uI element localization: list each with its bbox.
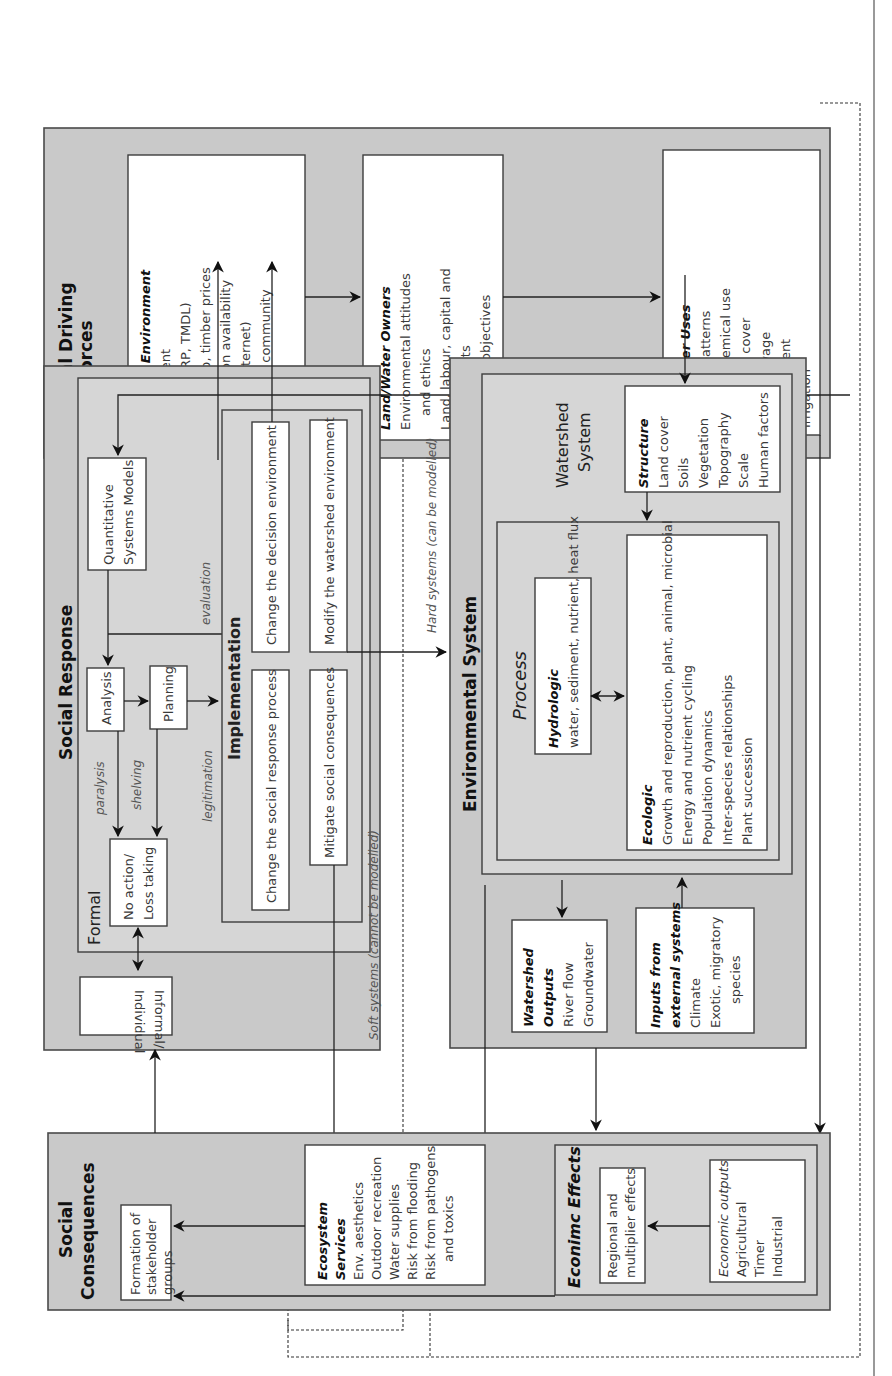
planning-label: Planning (161, 666, 176, 722)
social-response-title: Social Response (56, 605, 76, 760)
eo-line: Agricultural (734, 1202, 749, 1277)
ecosystem-services-heading: Ecosystem (315, 1202, 330, 1280)
wo-line: Groundwater (581, 941, 596, 1027)
informal-line: Informal/ (152, 990, 167, 1049)
qsm-line: Systems Models (121, 460, 136, 565)
process-title: Process (509, 651, 530, 720)
regional-line: multiplier effects (623, 1168, 638, 1278)
economic-outputs-heading: Economic outputs (716, 1160, 731, 1277)
ei-line: species (728, 955, 743, 1004)
watershed-outputs-heading-2: Outputs (541, 968, 556, 1027)
paralysis-label: paralysis (93, 761, 107, 816)
modify-watershed-env-label: Modify the watershed environment (322, 417, 337, 645)
legitimation-label: legitimation (201, 750, 215, 822)
structure-line: Human factors (756, 392, 771, 488)
es-line: Outdoor recreation (369, 1157, 384, 1280)
informal-line: Individual (132, 990, 147, 1053)
watershed-title: Watershed (553, 402, 572, 488)
qsm-line: Quantitative (101, 484, 116, 565)
lwo-line: Environmental attitudes (398, 273, 413, 430)
ei-line: Climate (688, 978, 703, 1028)
structure-heading: Structure (636, 418, 651, 488)
ei-line: Exotic, migratory (708, 916, 723, 1028)
sg-line: stakeholder (144, 1218, 159, 1295)
watershed-systems-diagram: Social Driving Forces Decision Environme… (0, 0, 892, 1376)
watershed-outputs-heading: Watershed (521, 948, 536, 1027)
structure-line: Scale (736, 453, 751, 488)
mitigate-consequences-label: Mitigate social consequences (322, 667, 337, 858)
structure-line: Vegetation (696, 418, 711, 488)
es-line: Env. aesthetics (351, 1182, 366, 1280)
es-line: and toxics (441, 1195, 456, 1262)
ecologic-line: Growth and reproduction, plant, animal, … (660, 520, 675, 845)
structure-line: Topography (716, 412, 731, 489)
external-inputs-heading: Inputs from (648, 942, 663, 1028)
environmental-system-title: Environmental System (460, 596, 480, 812)
lwo-line: and ethics (418, 348, 433, 416)
eo-line: Timer (752, 1239, 767, 1278)
ecologic-line: Inter-species relationships (720, 675, 735, 845)
economic-effects-title: Econimc Effects (565, 1146, 584, 1288)
external-inputs-heading-2: external systems (668, 902, 683, 1028)
change-decision-env-label: Change the decision environment (264, 425, 279, 645)
evaluation-label: evaluation (199, 562, 213, 625)
sg-line: Formation of (128, 1212, 143, 1295)
structure-line: Land cover (656, 415, 671, 488)
quantitative-models-box (88, 458, 146, 570)
sg-line: groups (160, 1250, 175, 1295)
hard-systems-label: Hard systems (can be modelled) (425, 438, 439, 633)
no-action-line: Loss taking (141, 847, 156, 920)
es-line: Water supplies (387, 1184, 402, 1280)
hydrologic-box (535, 578, 591, 754)
watershed-title-2: System (575, 412, 594, 472)
diagram-canvas: Social Driving Forces Decision Environme… (0, 0, 892, 1376)
es-line: Risk from flooding (405, 1162, 420, 1280)
no-action-line: No action/ (121, 853, 136, 920)
structure-line: Soils (676, 458, 691, 488)
ecologic-heading: Ecologic (640, 784, 655, 845)
formal-label: Formal (85, 890, 104, 945)
ecologic-line: Energy and nutrient cycling (680, 665, 695, 845)
es-line: Risk from pathogens (423, 1146, 438, 1280)
soft-systems-label: Soft systems (cannot be modelled) (367, 830, 381, 1040)
ecologic-line: Population dynamics (700, 710, 715, 845)
hydrologic-line: water, sediment, nutrient, heat flux (566, 516, 581, 748)
ecologic-line: Plant succession (740, 737, 755, 845)
hydrologic-heading: Hydrologic (546, 669, 561, 748)
shelving-label: shelving (130, 759, 144, 810)
analysis-label: Analysis (99, 671, 114, 725)
implementation-title: Implementation (225, 617, 244, 760)
ecosystem-services-heading-2: Services (333, 1218, 348, 1280)
no-action-box (110, 839, 167, 926)
social-consequences-title-2: Consequences (78, 1162, 98, 1300)
wo-line: River flow (561, 962, 576, 1027)
social-consequences-title: Social (56, 1201, 76, 1258)
regional-line: Regional and (605, 1193, 620, 1278)
eo-line: Industrial (770, 1216, 785, 1277)
change-social-response-label: Change the social response process (264, 669, 279, 903)
